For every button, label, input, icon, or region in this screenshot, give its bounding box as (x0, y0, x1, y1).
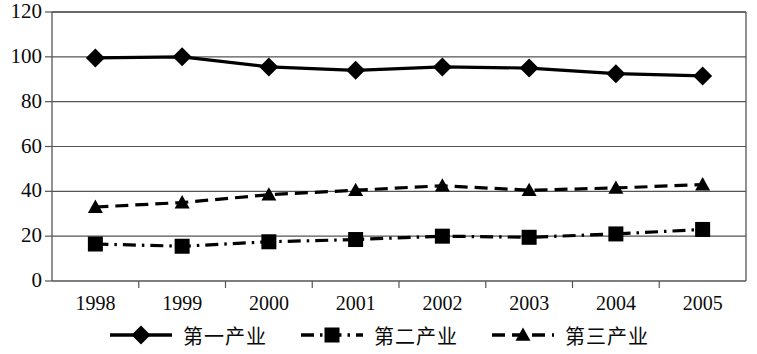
legend-item[interactable]: 第三产业 (490, 321, 649, 350)
square-marker-icon (348, 232, 363, 247)
square-marker-icon (435, 229, 450, 244)
y-tick-label: 0 (32, 270, 43, 291)
y-tick-label: 120 (11, 1, 43, 22)
data-series (88, 222, 710, 254)
legend-marker-sample (490, 324, 556, 346)
x-tick-label: 2005 (658, 293, 748, 313)
diamond-marker-icon (433, 57, 452, 76)
legend-item[interactable]: 第一产业 (108, 321, 267, 350)
x-tick-label: 2001 (311, 293, 401, 313)
square-marker-icon (522, 230, 537, 245)
square-marker-icon (88, 237, 103, 252)
square-marker-icon (325, 328, 340, 343)
legend-item[interactable]: 第二产业 (299, 321, 458, 350)
legend-label: 第一产业 (183, 321, 267, 350)
line-chart: 020406080100120 199819992000200120022003… (0, 0, 757, 354)
y-tick-label: 80 (21, 91, 42, 112)
diamond-marker-icon (259, 57, 278, 76)
diamond-marker-icon (520, 59, 539, 78)
y-tick-label: 100 (11, 46, 43, 67)
legend-marker-sample (108, 324, 174, 346)
x-axis-ticks (139, 281, 660, 288)
data-series-group (86, 47, 712, 253)
x-tick-label: 1998 (50, 293, 140, 313)
square-marker-icon (261, 234, 276, 249)
square-marker-icon (175, 239, 190, 254)
y-tick-label: 20 (21, 225, 42, 246)
x-tick-label: 2004 (571, 293, 661, 313)
y-tick-label: 40 (21, 180, 42, 201)
x-tick-label: 1999 (137, 293, 227, 313)
diamond-marker-icon (693, 66, 712, 85)
legend-marker-sample (299, 324, 365, 346)
diamond-marker-icon (346, 61, 365, 80)
square-marker-icon (695, 222, 710, 237)
diamond-marker-icon (132, 326, 151, 345)
diamond-marker-icon (173, 47, 192, 66)
x-tick-label: 2003 (484, 293, 574, 313)
data-series (86, 47, 712, 85)
x-tick-label: 2000 (224, 293, 314, 313)
legend-label: 第三产业 (565, 321, 649, 350)
diamond-marker-icon (86, 48, 105, 67)
y-tick-label: 60 (21, 136, 42, 157)
diamond-marker-icon (606, 64, 625, 83)
x-tick-label: 2002 (397, 293, 487, 313)
data-series (88, 177, 710, 213)
chart-legend: 第一产业第二产业第三产业 (0, 316, 757, 354)
square-marker-icon (608, 226, 623, 241)
y-axis-ticks (45, 12, 52, 281)
legend-label: 第二产业 (374, 321, 458, 350)
